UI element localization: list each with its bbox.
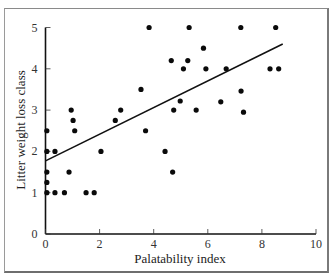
data-point (170, 169, 175, 174)
data-point (44, 180, 49, 185)
data-point (69, 108, 74, 113)
data-point (194, 108, 199, 113)
data-point (181, 66, 186, 71)
data-point (70, 118, 75, 123)
data-point (62, 190, 67, 195)
data-point (44, 149, 49, 154)
data-point (147, 25, 152, 30)
scatter-chart: 0246810012345 Palatability index Litter … (0, 0, 332, 278)
data-point (185, 58, 190, 63)
data-point (72, 128, 77, 133)
data-point (169, 58, 174, 63)
data-point (241, 110, 246, 115)
axes (46, 28, 317, 235)
x-tick-label: 10 (310, 237, 322, 251)
data-point (52, 190, 57, 195)
data-point (66, 169, 71, 174)
y-tick-label: 2 (32, 144, 38, 158)
data-point (203, 66, 208, 71)
data-point (44, 128, 49, 133)
x-tick-label: 6 (205, 237, 211, 251)
x-tick-label: 4 (151, 237, 157, 251)
y-tick-label: 1 (32, 186, 38, 200)
data-points (44, 25, 281, 195)
data-point (138, 87, 143, 92)
x-tick-label: 0 (43, 237, 49, 251)
y-tick-label: 5 (32, 21, 38, 35)
data-point (113, 118, 118, 123)
data-point (267, 66, 272, 71)
data-point (52, 149, 57, 154)
data-point (201, 46, 206, 51)
data-point (276, 66, 281, 71)
x-tick-label: 2 (97, 237, 103, 251)
data-point (98, 149, 103, 154)
data-point (44, 169, 49, 174)
regression-line-group (46, 44, 283, 161)
data-point (187, 25, 192, 30)
x-tick-label: 8 (259, 237, 265, 251)
data-point (44, 190, 49, 195)
data-point (92, 190, 97, 195)
data-point (118, 108, 123, 113)
y-axis-title: Litter weight loss class (13, 70, 28, 190)
data-point (273, 25, 278, 30)
regression-line (46, 44, 283, 161)
data-point (171, 108, 176, 113)
y-tick-label: 0 (32, 227, 38, 241)
ticks: 0246810012345 (32, 21, 323, 252)
data-point (143, 128, 148, 133)
data-point (238, 89, 243, 94)
x-axis-title: Palatability index (134, 251, 226, 266)
data-point (162, 149, 167, 154)
data-point (83, 190, 88, 195)
y-tick-label: 3 (32, 103, 38, 117)
data-point (238, 25, 243, 30)
y-tick-label: 4 (32, 62, 38, 76)
data-point (178, 98, 183, 103)
data-point (218, 99, 223, 104)
